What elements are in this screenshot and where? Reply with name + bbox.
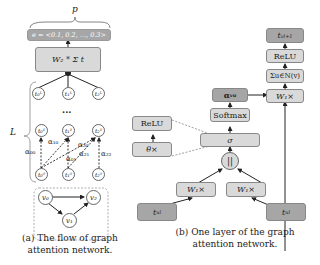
node-t2-L: t₂ᴸ (92, 87, 105, 100)
node-t1-1: t₁¹ (62, 124, 75, 137)
node-t2-1: t₂¹ (92, 124, 105, 137)
output-sup: l+1 (284, 33, 293, 39)
graph-node-v0: v₀ (38, 190, 53, 205)
relu-right-box: ReLU (266, 49, 304, 63)
output-t-v-l+1: tvl+1 (266, 28, 304, 43)
relu-left-box: ReLU (132, 116, 172, 131)
input-t-u-left: tul (137, 203, 177, 221)
theta-box: θ× (132, 142, 172, 157)
input-right-sup: l (288, 209, 290, 215)
alpha-sub: vu (230, 92, 237, 98)
sum-expression: W₂ * Σ t (52, 55, 84, 64)
node-t1-L: t₁ᴸ (62, 87, 75, 100)
caption-b-line1: (b) One layer of the graph (150, 226, 320, 238)
node-t1-0: t₁⁰ (62, 168, 75, 181)
sigma-box: σ (200, 133, 260, 147)
w1-mid-box: W₁× (226, 182, 266, 197)
concat-node: || (221, 152, 239, 170)
node-t2-0: t₂⁰ (92, 168, 105, 181)
caption-a-line2: attention network. (0, 244, 140, 256)
input-t-u-right: tul (266, 203, 306, 221)
softmax-box: Softmax (210, 108, 250, 122)
alpha-21: α₂₁ (79, 150, 89, 158)
alpha-10: α₁₀ (48, 138, 58, 146)
caption-a-line1: (a) The flow of graph (0, 232, 140, 244)
w1-left-box: W₁× (176, 182, 216, 197)
caption-a: (a) The flow of graph attention network. (0, 232, 140, 256)
w1-right-box: W₁× (266, 89, 304, 103)
node-t0-L: t₀ᴸ (32, 87, 45, 100)
graph-node-v1: v₁ (62, 213, 77, 228)
alpha-00: α₀₀ (25, 148, 35, 156)
aggregate-sum-box: Σu∈N(v) (266, 69, 304, 83)
graph-node-v2: v₂ (86, 190, 101, 205)
embedding-vector: e = <0.1, 0.2, ..., 0.3> (27, 29, 111, 41)
alpha-01: α₀₁ (66, 155, 76, 163)
alpha-vu-box: αvu (212, 88, 248, 102)
ellipsis: ... (62, 105, 71, 115)
L-label: L (10, 127, 16, 137)
caption-b-line2: attention network. (150, 238, 320, 250)
input-left-sup: l (159, 209, 161, 215)
sum-box: W₂ * Σ t (35, 47, 101, 72)
p-label: p (72, 4, 78, 14)
alpha-20: α₂₀ (78, 141, 88, 149)
node-t0-1: t₀¹ (35, 124, 48, 137)
node-t0-0: t₀⁰ (35, 168, 48, 181)
caption-b: (b) One layer of the graph attention net… (150, 226, 320, 250)
alpha-22: α₂₂ (101, 150, 111, 158)
